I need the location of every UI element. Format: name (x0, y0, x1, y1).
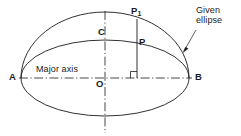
callout-given-ellipse-line2: ellipse (196, 16, 222, 26)
label-point-p1: P1 (131, 6, 141, 18)
label-point-p: P (139, 37, 145, 47)
ellipse-construction-figure: A B C O P P1 Major axis Givenellipse (0, 0, 241, 136)
label-point-b: B (195, 72, 202, 82)
callout-given-ellipse: Givenellipse (196, 6, 222, 25)
callout-given-ellipse-line1: Given (196, 5, 220, 15)
label-point-a: A (9, 72, 16, 82)
callout-arrowhead-icon (183, 47, 188, 52)
label-point-p1-subscript: 1 (137, 10, 141, 17)
right-angle-marker (131, 72, 138, 79)
label-point-c: C (98, 27, 105, 37)
label-major-axis: Major axis (36, 65, 78, 75)
label-point-o: O (96, 79, 104, 89)
